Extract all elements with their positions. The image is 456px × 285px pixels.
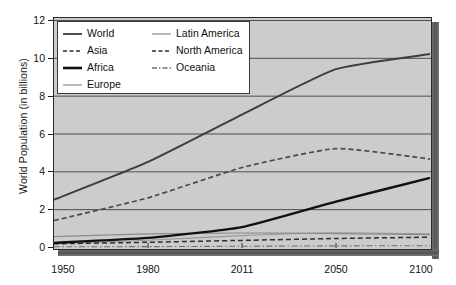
legend-item-label: Latin America: [176, 28, 240, 39]
legend-column-1: WorldAsiaAfricaEurope: [63, 25, 121, 93]
x-tick-label: 2100: [409, 263, 432, 275]
legend-item-label: Oceania: [176, 62, 215, 73]
legend-item[interactable]: Oceania: [152, 59, 243, 76]
legend-item-label: Europe: [87, 79, 121, 90]
legend-item[interactable]: World: [63, 25, 121, 42]
legend-line-swatch-icon: [63, 29, 82, 39]
y-tick-label: 6: [11, 128, 45, 140]
legend-item[interactable]: Africa: [63, 59, 121, 76]
legend-line-swatch-icon: [63, 46, 82, 56]
series-line-oceania: [54, 246, 430, 247]
legend-item-label: World: [87, 28, 114, 39]
y-tick-label: 8: [11, 90, 45, 102]
chart-figure: World Population (in billions) 024681012…: [0, 0, 456, 285]
y-tick-label: 12: [11, 14, 45, 26]
legend-item-label: Asia: [87, 45, 107, 56]
legend-line-swatch-icon: [152, 63, 171, 73]
legend-item-label: North America: [176, 45, 243, 56]
x-tick-label: 2011: [231, 263, 254, 275]
x-tick-label: 2050: [324, 263, 347, 275]
legend-item-label: Africa: [87, 62, 114, 73]
y-tick-label: 2: [11, 203, 45, 215]
y-axis-tick-labels: 024681012: [0, 17, 53, 248]
x-tick-label: 1980: [136, 263, 159, 275]
plot-3d-shadow-bottom: [58, 249, 439, 256]
legend-line-swatch-icon: [152, 29, 171, 39]
y-tick-label: 10: [11, 52, 45, 64]
legend-line-swatch-icon: [152, 46, 171, 56]
plot-3d-shadow-right: [432, 22, 439, 259]
legend-line-swatch-icon: [63, 80, 82, 90]
chart-legend: WorldAsiaAfricaEurope Latin AmericaNorth…: [57, 21, 250, 94]
plot-area-wrapper: WorldAsiaAfricaEurope Latin AmericaNorth…: [53, 17, 439, 254]
legend-column-2: Latin AmericaNorth AmericaOceania: [152, 25, 243, 76]
legend-item[interactable]: Europe: [63, 76, 121, 93]
legend-item[interactable]: North America: [152, 42, 243, 59]
x-tick-label: 1950: [51, 263, 74, 275]
legend-item[interactable]: Asia: [63, 42, 121, 59]
legend-line-swatch-icon: [63, 63, 82, 73]
y-tick-label: 4: [11, 165, 45, 177]
y-tick-label: 0: [11, 241, 45, 253]
legend-item[interactable]: Latin America: [152, 25, 243, 42]
